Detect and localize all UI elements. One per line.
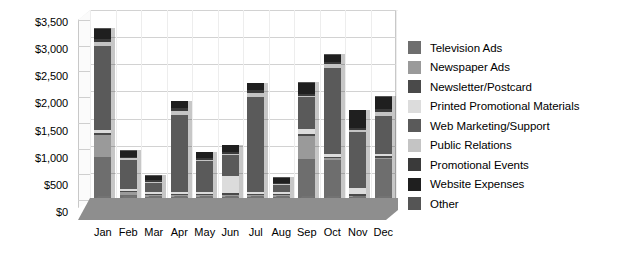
legend-item[interactable]: Public Relations [408,136,614,156]
legend-item[interactable]: Newspaper Ads [408,58,614,78]
y-axis-tick-label: $1,500 [35,125,68,137]
bar-segment [94,157,111,200]
y-axis-tick-label: $1,000 [35,152,68,164]
legend-item-label: Web Marketing/Support [430,120,550,132]
bar-jul[interactable] [247,83,264,200]
bar-segment [171,115,188,192]
vertical-gridline [396,10,397,200]
legend-item[interactable]: Promotional Events [408,155,614,175]
bar-side-face [137,150,141,200]
y-axis-tick-label: $2,000 [35,97,68,109]
x-axis-tick-label: Jun [221,226,239,238]
bar-segment [324,55,341,62]
x-axis: JanFebMarAprMayJunJulAugSepOctNovDec [78,226,398,246]
legend-color-swatch [408,61,421,74]
legend-item[interactable]: Newsletter/Postcard [408,77,614,97]
legend-color-swatch [408,178,421,191]
legend-item[interactable]: Television Ads [408,38,614,58]
y-axis: $0$500$1,000$1,500$2,000$2,500$3,000$3,5… [0,0,74,253]
legend-color-swatch [408,139,421,152]
bar-nov[interactable] [349,110,366,200]
bar-segment [375,159,392,200]
x-axis-tick-label: Jul [249,226,263,238]
bars-layer [90,10,396,200]
bar-aug[interactable] [273,177,290,200]
y-axis-tick-label: $3,500 [35,16,68,28]
legend-color-swatch [408,197,421,210]
x-axis-tick-label: Jan [94,226,112,238]
x-axis-tick-label: Oct [324,226,341,238]
bar-mar[interactable] [145,175,162,200]
bar-side-face [264,83,268,200]
legend-item-label: Newsletter/Postcard [430,81,532,93]
bar-segment [349,110,366,128]
bar-segment [324,68,341,154]
legend-item-label: Public Relations [430,139,512,151]
bar-side-face [213,152,217,200]
bar-segment [247,83,264,90]
bar-jun[interactable] [222,145,239,200]
legend-item-label: Other [430,198,459,210]
bar-segment [247,97,264,192]
legend-color-swatch [408,158,421,171]
bar-side-face [162,175,166,200]
legend-item[interactable]: Website Expenses [408,175,614,195]
legend-item-label: Website Expenses [430,178,524,190]
bar-segment [349,132,366,188]
legend-item[interactable]: Other [408,194,614,214]
bar-segment [120,160,137,189]
bar-segment [145,183,162,192]
bar-side-face [188,101,192,200]
y-axis-tick-label: $500 [44,179,68,191]
bar-segment [298,159,315,200]
legend: Television AdsNewspaper AdsNewsletter/Po… [408,38,614,214]
x-axis-tick-label: Mar [144,226,163,238]
bar-feb[interactable] [120,150,137,200]
bar-side-face [111,28,115,200]
legend-item-label: Television Ads [430,42,502,54]
bar-side-face [315,82,319,200]
bar-segment [375,97,392,109]
legend-color-swatch [408,100,421,113]
bar-jan[interactable] [94,28,111,200]
bar-segment [324,160,341,200]
legend-color-swatch [408,41,421,54]
stacked-bar-chart: $0$500$1,000$1,500$2,000$2,500$3,000$3,5… [0,0,618,253]
legend-color-swatch [408,80,421,93]
legend-item-label: Newspaper Ads [430,61,510,73]
bar-oct[interactable] [324,54,341,200]
y-axis-tick-label: $2,500 [35,70,68,82]
bar-segment [196,161,213,191]
legend-item-label: Promotional Events [430,159,529,171]
bar-segment [222,176,239,194]
x-axis-tick-label: Dec [373,226,393,238]
x-axis-tick-label: Feb [119,226,138,238]
bar-side-face [392,96,396,200]
legend-item[interactable]: Printed Promotional Materials [408,97,614,117]
bar-segment [94,29,111,39]
plot-area [78,10,398,222]
plot-floor [78,198,398,220]
legend-item-label: Printed Promotional Materials [430,100,579,112]
x-axis-tick-label: May [194,226,215,238]
bar-side-face [341,54,345,200]
legend-item[interactable]: Web Marketing/Support [408,116,614,136]
bar-sep[interactable] [298,82,315,200]
bar-segment [298,83,315,94]
x-axis-tick-label: Aug [271,226,291,238]
bar-segment [298,97,315,129]
y-axis-tick-label: $0 [56,206,68,218]
bar-segment [273,185,290,193]
bar-side-face [366,110,370,200]
bar-side-face [239,145,243,200]
bar-segment [94,46,111,131]
x-axis-tick-label: Nov [348,226,368,238]
x-axis-tick-label: Apr [171,226,188,238]
bar-apr[interactable] [171,101,188,200]
legend-color-swatch [408,119,421,132]
bar-segment [94,135,111,157]
bar-dec[interactable] [375,96,392,200]
bar-segment [222,155,239,176]
bar-may[interactable] [196,152,213,200]
bar-segment [298,136,315,159]
